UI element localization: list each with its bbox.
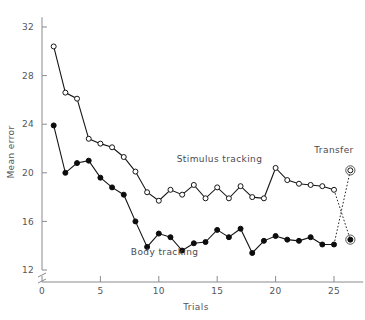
chart-annotations: Stimulus trackingBody trackingTransfer	[131, 145, 354, 257]
series-label-body-tracking: Body tracking	[131, 247, 199, 257]
data-point-open-circle	[168, 187, 173, 192]
series-line-stimulus-tracking	[54, 46, 334, 200]
y-tick-label: 12	[22, 265, 34, 275]
transfer-point-open-circle	[348, 168, 353, 173]
data-point-filled-circle	[285, 237, 290, 242]
data-point-open-circle	[191, 182, 196, 187]
transfer-label: Transfer	[313, 145, 353, 155]
data-point-open-circle	[203, 196, 208, 201]
data-point-filled-circle	[168, 235, 173, 240]
data-point-open-circle	[63, 90, 68, 95]
data-point-open-circle	[156, 198, 161, 203]
x-tick-label: 20	[270, 286, 282, 296]
data-point-open-circle	[296, 181, 301, 186]
data-point-open-circle	[215, 185, 220, 190]
x-axis-title: Trials	[182, 302, 208, 312]
data-point-filled-circle	[320, 242, 325, 247]
data-point-open-circle	[250, 195, 255, 200]
mean-error-line-chart: 1216202428320510152025 Stimulus tracking…	[0, 0, 365, 320]
x-tick-label: 0	[39, 286, 45, 296]
y-tick-label: 28	[22, 71, 34, 81]
data-point-filled-circle	[110, 185, 115, 190]
x-tick-label: 15	[211, 286, 223, 296]
data-point-filled-circle	[98, 175, 103, 180]
data-point-filled-circle	[238, 226, 243, 231]
data-point-open-circle	[133, 169, 138, 174]
y-tick-label: 32	[22, 22, 34, 32]
data-point-filled-circle	[203, 240, 208, 245]
x-tick-label: 25	[328, 286, 340, 296]
data-point-open-circle	[98, 141, 103, 146]
data-point-filled-circle	[156, 231, 161, 236]
data-point-open-circle	[238, 184, 243, 189]
data-point-filled-circle	[273, 233, 278, 238]
data-point-filled-circle	[332, 242, 337, 247]
data-point-open-circle	[75, 96, 80, 101]
series-line-body-tracking	[54, 125, 334, 253]
chart-series-curves	[54, 46, 351, 253]
data-point-open-circle	[86, 136, 91, 141]
chart-series-markers	[51, 44, 355, 256]
data-point-open-circle	[261, 196, 266, 201]
data-point-open-circle	[121, 155, 126, 160]
data-point-open-circle	[145, 190, 150, 195]
data-point-filled-circle	[63, 170, 68, 175]
data-point-filled-circle	[308, 235, 313, 240]
data-point-open-circle	[320, 184, 325, 189]
data-point-open-circle	[332, 187, 337, 192]
transfer-point-filled-circle	[348, 237, 353, 242]
data-point-filled-circle	[191, 241, 196, 246]
data-point-open-circle	[285, 178, 290, 183]
chart-figure: 1216202428320510152025 Stimulus tracking…	[0, 0, 365, 320]
data-point-filled-circle	[133, 219, 138, 224]
data-point-filled-circle	[261, 238, 266, 243]
y-tick-label: 24	[22, 119, 34, 129]
data-point-open-circle	[180, 192, 185, 197]
data-point-filled-circle	[296, 238, 301, 243]
data-point-filled-circle	[121, 192, 126, 197]
data-point-filled-circle	[86, 158, 91, 163]
data-point-filled-circle	[51, 123, 56, 128]
data-point-open-circle	[110, 145, 115, 150]
data-point-filled-circle	[226, 235, 231, 240]
data-point-filled-circle	[75, 161, 80, 166]
data-point-open-circle	[273, 165, 278, 170]
y-axis-title: Mean error	[6, 125, 16, 178]
series-label-stimulus-tracking: Stimulus tracking	[177, 154, 263, 164]
data-point-filled-circle	[250, 250, 255, 255]
transfer-connector	[334, 190, 350, 240]
data-point-open-circle	[308, 182, 313, 187]
data-point-filled-circle	[215, 227, 220, 232]
x-tick-label: 10	[153, 286, 165, 296]
y-tick-label: 16	[22, 217, 34, 227]
y-tick-label: 20	[22, 168, 34, 178]
data-point-open-circle	[51, 44, 56, 49]
data-point-open-circle	[226, 196, 231, 201]
x-tick-label: 5	[97, 286, 103, 296]
